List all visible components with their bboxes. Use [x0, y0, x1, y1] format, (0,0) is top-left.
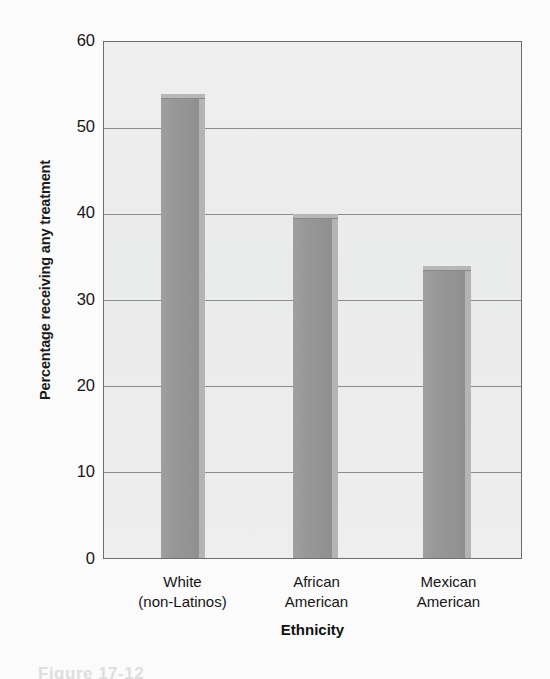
- bar-top-face: [423, 266, 471, 271]
- y-tick-label-30: 30: [61, 291, 95, 308]
- bar-african-american[interactable]: [293, 214, 338, 558]
- x-tick-line-1: Mexican: [381, 572, 516, 592]
- x-tick-line-1: African: [249, 572, 384, 592]
- bar-chart-figure: Percentage receiving any treatment 60 50…: [0, 0, 550, 679]
- bar-white-non-latinos[interactable]: [161, 94, 205, 558]
- x-tick-label-white-non-latinos: White (non-Latinos): [115, 572, 250, 612]
- bar-top-face: [161, 94, 205, 99]
- y-tick-label-0: 0: [61, 550, 95, 567]
- x-tick-label-mexican-american: Mexican American: [381, 572, 516, 612]
- x-axis-title: Ethnicity: [103, 621, 522, 638]
- y-tick-label-20: 20: [61, 377, 95, 394]
- bar-side-face: [465, 266, 471, 558]
- x-tick-line-1: White: [115, 572, 250, 592]
- y-axis-tick-labels: 60 50 40 30 20 10 0: [55, 0, 95, 679]
- x-axis-tick-labels: White (non-Latinos) African American Mex…: [103, 572, 522, 624]
- bar-side-face: [332, 214, 338, 558]
- x-tick-line-2: (non-Latinos): [115, 592, 250, 612]
- y-tick-label-50: 50: [61, 118, 95, 135]
- x-tick-label-african-american: African American: [249, 572, 384, 612]
- bar-top-face: [293, 214, 338, 219]
- x-tick-line-2: American: [249, 592, 384, 612]
- y-tick-label-40: 40: [61, 204, 95, 221]
- y-tick-label-10: 10: [61, 463, 95, 480]
- y-tick-label-60: 60: [61, 32, 95, 49]
- figure-caption-partial: Figure 17-12: [38, 664, 144, 679]
- x-tick-line-2: American: [381, 592, 516, 612]
- plot-area: [103, 41, 522, 559]
- bar-mexican-american[interactable]: [423, 266, 471, 558]
- bar-side-face: [199, 94, 205, 558]
